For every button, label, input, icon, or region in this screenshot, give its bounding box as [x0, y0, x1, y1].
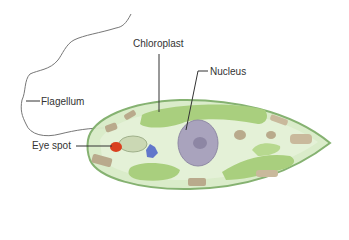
reservoir — [119, 136, 147, 152]
nucleus-label: Nucleus — [210, 66, 246, 77]
flagellum-label: Flagellum — [41, 96, 84, 107]
eye-spot-label: Eye spot — [32, 140, 71, 151]
paramylon-granule — [234, 130, 246, 140]
paramylon-granule — [256, 170, 278, 177]
paramylon-granule — [266, 131, 276, 139]
nucleolus — [193, 137, 207, 149]
chloroplast-label: Chloroplast — [133, 38, 184, 49]
paramylon-granule — [290, 134, 312, 144]
paramylon-granule — [188, 178, 206, 186]
eye-spot — [110, 142, 122, 152]
